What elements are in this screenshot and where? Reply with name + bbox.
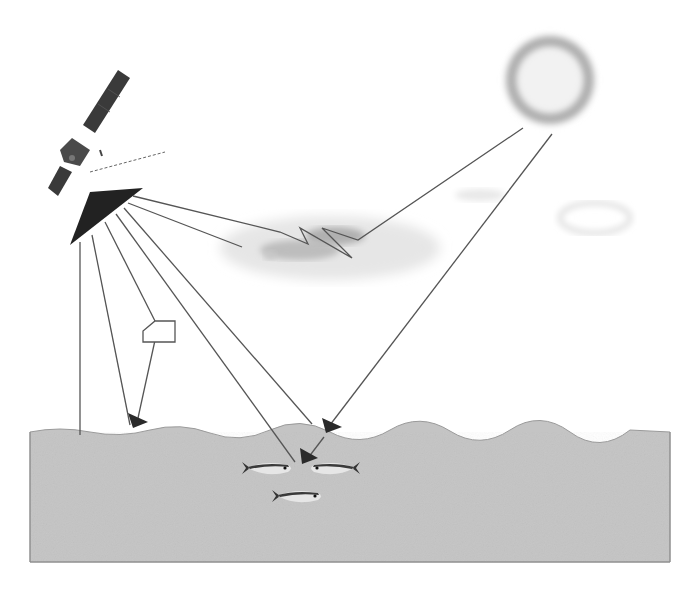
light-paths xyxy=(80,128,552,462)
path-sensor-particle xyxy=(105,222,155,321)
path-sensor-cloud xyxy=(128,203,242,247)
path-particle-surface xyxy=(138,331,157,418)
path-sun-surface xyxy=(330,134,552,425)
aerosol-particle xyxy=(143,321,175,342)
water-body xyxy=(30,420,670,562)
cloud xyxy=(220,189,630,280)
satellite-icon xyxy=(48,70,165,196)
path-sensor-surface-left xyxy=(92,235,130,425)
sun-icon xyxy=(503,33,597,127)
remote-sensing-diagram xyxy=(0,0,699,593)
